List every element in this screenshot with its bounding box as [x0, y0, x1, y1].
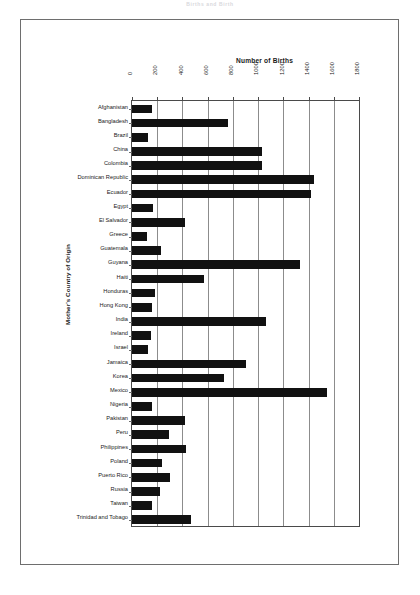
- x-tick-label: 1800: [354, 62, 360, 75]
- bar: [132, 161, 262, 170]
- y-tick-label: Jamaica: [107, 357, 128, 368]
- bar-row: Philippines: [132, 441, 359, 455]
- bar: [132, 402, 152, 411]
- y-tick-label: China: [113, 144, 128, 155]
- bar-row: Honduras: [132, 285, 359, 299]
- y-tick-label: Puerto Rico: [98, 470, 128, 481]
- y-tick-label: Colombia: [104, 158, 128, 169]
- bar-row: Bangladesh: [132, 115, 359, 129]
- bar-row: El Salvador: [132, 214, 359, 228]
- bar-row: Dominican Republic: [132, 172, 359, 186]
- bar: [132, 501, 152, 510]
- y-tick-label: Egypt: [113, 201, 128, 212]
- y-tick-label: Trinidad and Tobago: [76, 512, 128, 523]
- bar-row: Poland: [132, 455, 359, 469]
- y-tick-label: Haiti: [117, 272, 128, 283]
- bar: [132, 119, 228, 128]
- x-tick-label: 1000: [253, 62, 259, 75]
- bar-row: Puerto Rico: [132, 469, 359, 483]
- bar: [132, 175, 314, 184]
- x-tick-label: 600: [203, 65, 209, 75]
- y-tick-label: Ecuador: [107, 187, 128, 198]
- y-tick-label: Pakistan: [106, 413, 128, 424]
- bar-row: Egypt: [132, 200, 359, 214]
- bar: [132, 416, 185, 425]
- bar: [132, 246, 161, 255]
- bar-row: Taiwan: [132, 498, 359, 512]
- x-tick-label: 200: [152, 65, 158, 75]
- bar: [132, 360, 246, 369]
- x-tick-label: 1600: [329, 62, 335, 75]
- x-tick-label: 0: [127, 72, 133, 75]
- bar: [132, 260, 300, 269]
- x-tick-label: 1400: [304, 62, 310, 75]
- bar-row: Afghanistan: [132, 101, 359, 115]
- x-tick-label: 1200: [279, 62, 285, 75]
- bar: [132, 275, 204, 284]
- y-tick-label: Dominican Republic: [77, 172, 128, 183]
- y-tick-label: Philippines: [100, 442, 128, 453]
- bar: [132, 331, 151, 340]
- bar-row: Korea: [132, 370, 359, 384]
- bar-row: Colombia: [132, 158, 359, 172]
- bar-row: Israel: [132, 342, 359, 356]
- bar-row: Greece: [132, 229, 359, 243]
- bar-row: Hong Kong: [132, 299, 359, 313]
- x-tick-label: 400: [178, 65, 184, 75]
- chart-title: Number of Births: [151, 57, 378, 64]
- bar-row: Jamaica: [132, 356, 359, 370]
- bar-row: China: [132, 144, 359, 158]
- y-tick-label: El Salvador: [99, 215, 128, 226]
- y-tick-label: Greece: [109, 229, 128, 240]
- bar-row: Ireland: [132, 328, 359, 342]
- bar-row: Brazil: [132, 129, 359, 143]
- bar: [132, 345, 148, 354]
- bar-row: Mexico: [132, 384, 359, 398]
- bar: [132, 303, 152, 312]
- bar: [132, 105, 152, 114]
- bar: [132, 374, 224, 383]
- bar: [132, 459, 162, 468]
- bar: [132, 218, 185, 227]
- bar: [132, 473, 170, 482]
- bar-row: Ecuador: [132, 186, 359, 200]
- bar: [132, 388, 327, 397]
- y-tick-label: Russia: [111, 484, 128, 495]
- bar: [132, 430, 169, 439]
- scan-header-text: Births and Birth: [0, 1, 420, 7]
- bar-row: Guatemala: [132, 243, 359, 257]
- bar-row: India: [132, 314, 359, 328]
- y-tick-label: Brazil: [114, 130, 128, 141]
- bar-row: Guyana: [132, 257, 359, 271]
- y-tick-label: Guyana: [108, 257, 128, 268]
- y-tick-label: Ireland: [111, 328, 128, 339]
- x-tick-mark: [359, 97, 360, 101]
- y-tick-label: Korea: [113, 371, 128, 382]
- bar: [132, 190, 311, 199]
- y-axis-title: Mother's Country of Origin: [64, 244, 71, 325]
- y-tick-label: Afghanistan: [98, 102, 128, 113]
- bar-row: Trinidad and Tobago: [132, 512, 359, 526]
- bar: [132, 289, 155, 298]
- bar: [132, 232, 147, 241]
- bar: [132, 445, 186, 454]
- bar-chart: Number of Births 02004006008001000120014…: [20, 19, 399, 565]
- y-tick-label: Guatemala: [100, 243, 128, 254]
- y-tick-label: Bangladesh: [98, 116, 128, 127]
- bar: [132, 204, 153, 213]
- y-tick-label: Poland: [110, 456, 128, 467]
- y-tick-label: Honduras: [103, 286, 128, 297]
- bar-row: Nigeria: [132, 399, 359, 413]
- y-tick-label: Mexico: [110, 385, 128, 396]
- bar: [132, 317, 266, 326]
- y-tick-label: Taiwan: [110, 498, 128, 509]
- x-tick-label: 800: [228, 65, 234, 75]
- plot-area: AfghanistanBangladeshBrazilChinaColombia…: [131, 100, 360, 527]
- bar: [132, 147, 262, 156]
- y-tick-label: Hong Kong: [100, 300, 128, 311]
- bar-row: Pakistan: [132, 413, 359, 427]
- bar-row: Haiti: [132, 271, 359, 285]
- bar-row: Russia: [132, 484, 359, 498]
- bar-row: Peru: [132, 427, 359, 441]
- y-tick-label: Peru: [116, 427, 128, 438]
